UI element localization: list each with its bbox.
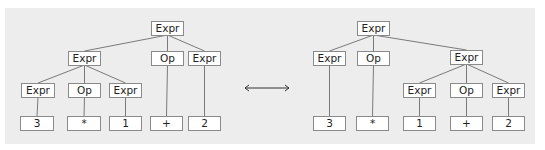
right-tree-node-op: Op [450, 83, 483, 98]
right-tree-node-op: Op [357, 51, 390, 66]
right-tree-node-expr: Expr [357, 21, 390, 36]
right-tree-node-1: 1 [403, 116, 436, 131]
left-tree-node-op: Op [68, 83, 101, 98]
left-tree-node-3: 3 [20, 116, 54, 131]
tree-edge [85, 35, 168, 51]
left-tree-node-expr: Expr [68, 51, 101, 66]
tree-edge [84, 97, 85, 116]
right-tree-node-expr: Expr [313, 51, 346, 66]
left-tree-node-2: 2 [188, 116, 221, 131]
tree-edge [38, 65, 85, 83]
tree-edge [168, 35, 205, 51]
left-tree-node-1: 1 [109, 116, 142, 131]
double-arrow-icon [245, 85, 289, 91]
right-tree-node-plus: + [450, 116, 483, 131]
right-tree-node-expr: Expr [492, 83, 525, 98]
tree-edge [374, 35, 467, 50]
tree-edge [85, 65, 126, 83]
tree-edge [167, 65, 168, 116]
tree-edge [467, 64, 509, 83]
right-tree-node-expr: Expr [403, 83, 436, 98]
left-tree-node-expr: Expr [151, 21, 184, 36]
right-tree-node-3: 3 [313, 116, 346, 131]
left-tree-node-op: Op [151, 51, 184, 66]
left-tree-node-expr: Expr [188, 51, 221, 66]
left-tree-node-star: * [67, 116, 101, 131]
left-tree-node-expr: Expr [109, 83, 142, 98]
right-tree-node-2: 2 [492, 116, 525, 131]
tree-edge [330, 35, 374, 51]
tree-edge [420, 64, 467, 83]
tree-edge [37, 97, 38, 116]
left-tree-node-expr: Expr [21, 83, 55, 98]
left-tree-node-plus: + [150, 116, 183, 131]
right-tree-node-star: * [356, 116, 389, 131]
tree-edge [373, 65, 374, 116]
right-tree-node-expr: Expr [450, 50, 483, 65]
